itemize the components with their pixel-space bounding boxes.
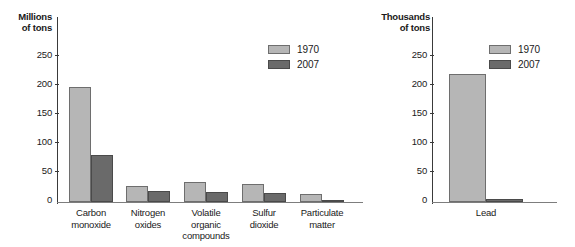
bar-particulate-matter-1970 <box>300 194 322 202</box>
right-chart-panel: Thousands of tons 250 200 150 100 50 0 L… <box>370 0 575 247</box>
right-chart-ytick-mark-250 <box>430 55 434 56</box>
bar-volatile-organic-compounds-1970 <box>184 182 206 202</box>
left-chart-ytick-0: 0 <box>26 195 52 205</box>
left-chart-y-axis-title: Millions of tons <box>0 11 52 33</box>
legend-swatch-1970-icon <box>489 45 511 54</box>
x-label-particulate-matter: Particulate matter <box>284 207 360 230</box>
left-chart-ytick-250: 250 <box>26 50 52 60</box>
left-chart-x-axis-line <box>57 202 363 203</box>
bar-carbon-monoxide-1970 <box>69 87 91 202</box>
right-chart-ytick-100: 100 <box>401 137 427 147</box>
right-chart-x-axis-line <box>432 202 557 203</box>
right-chart-ytick-150: 150 <box>401 108 427 118</box>
bar-particulate-matter-2007 <box>322 200 344 202</box>
right-chart-ytick-mark-200 <box>430 84 434 85</box>
bar-carbon-monoxide-2007 <box>91 155 113 202</box>
legend-label-1970: 1970 <box>518 45 540 55</box>
right-chart-ytick-200: 200 <box>401 79 427 89</box>
left-chart-ytick-200: 200 <box>26 79 52 89</box>
legend-swatch-2007-icon <box>268 60 290 69</box>
right-chart-ytick-mark-150 <box>430 113 434 114</box>
left-chart-ytick-mark-250 <box>55 55 59 56</box>
legend-item-2007: 2007 <box>489 59 540 70</box>
right-chart-y-axis-line <box>432 17 433 204</box>
right-chart-ytick-mark-50 <box>430 171 434 172</box>
left-chart-y-axis-line <box>57 17 58 204</box>
legend-item-1970: 1970 <box>489 44 540 55</box>
right-chart-ytick-0: 0 <box>401 195 427 205</box>
left-chart-ytick-mark-100 <box>55 142 59 143</box>
left-chart-ytick-mark-200 <box>55 84 59 85</box>
left-chart-ytick-mark-50 <box>55 171 59 172</box>
left-chart-ytick-100: 100 <box>26 137 52 147</box>
right-chart-ytick-50: 50 <box>401 166 427 176</box>
left-chart-legend: 1970 2007 <box>268 44 319 74</box>
bar-volatile-organic-compounds-2007 <box>206 192 228 202</box>
left-chart-ytick-50: 50 <box>26 166 52 176</box>
x-label-lead: Lead <box>448 207 524 219</box>
right-chart-ytick-250: 250 <box>401 50 427 60</box>
bar-lead-1970 <box>449 74 486 202</box>
bar-sulfur-dioxide-1970 <box>242 184 264 202</box>
left-chart-panel: Millions of tons 250 200 150 100 50 0 <box>0 0 370 247</box>
right-chart-y-axis-title: Thousands of tons <box>370 11 430 33</box>
legend-swatch-1970-icon <box>268 45 290 54</box>
right-chart-legend: 1970 2007 <box>489 44 540 74</box>
legend-item-1970: 1970 <box>268 44 319 55</box>
legend-label-2007: 2007 <box>297 60 319 70</box>
bar-lead-2007 <box>486 199 523 202</box>
bar-sulfur-dioxide-2007 <box>264 193 286 202</box>
legend-label-1970: 1970 <box>297 45 319 55</box>
emissions-figure: Millions of tons 250 200 150 100 50 0 <box>0 0 575 247</box>
left-chart-ytick-150: 150 <box>26 108 52 118</box>
bar-nitrogen-oxides-1970 <box>126 186 148 202</box>
right-chart-ytick-mark-100 <box>430 142 434 143</box>
legend-swatch-2007-icon <box>489 60 511 69</box>
left-chart-ytick-mark-150 <box>55 113 59 114</box>
bar-nitrogen-oxides-2007 <box>148 191 170 202</box>
legend-item-2007: 2007 <box>268 59 319 70</box>
legend-label-2007: 2007 <box>518 60 540 70</box>
